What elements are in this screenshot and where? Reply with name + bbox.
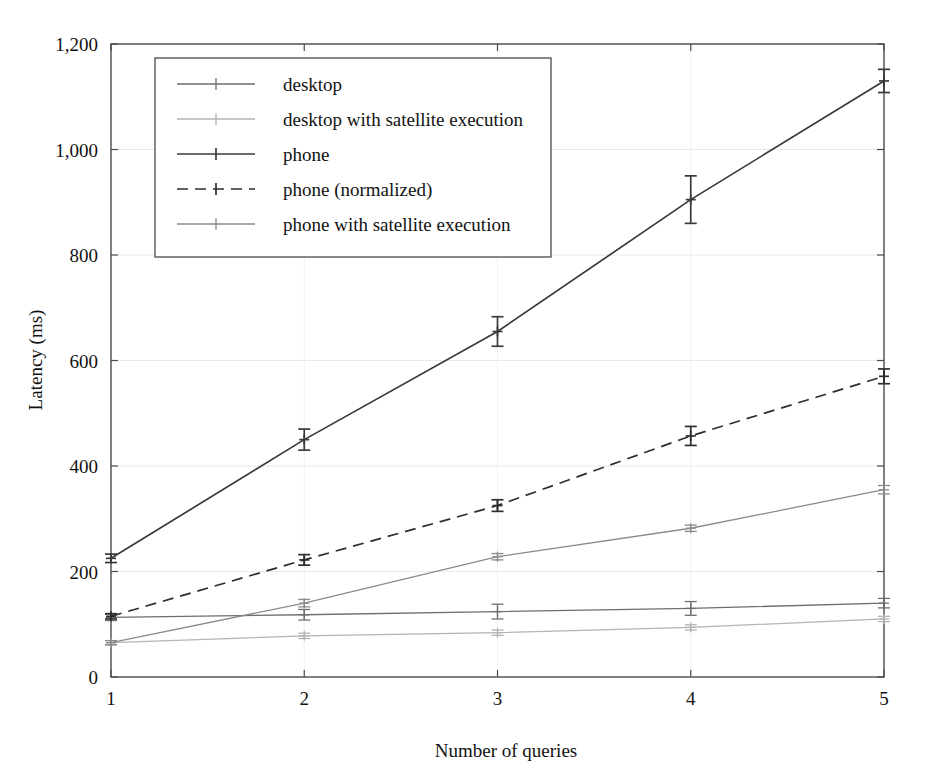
x-tick-label: 2: [300, 688, 310, 709]
y-tick-label: 200: [70, 562, 99, 583]
x-tick-label: 4: [686, 688, 696, 709]
legend-label: desktop: [283, 74, 342, 95]
legend-label: phone: [283, 144, 329, 165]
y-tick-label: 1,000: [55, 140, 98, 161]
legend-label: phone (normalized): [283, 179, 432, 201]
x-tick-label: 3: [493, 688, 503, 709]
chart-legend: desktopdesktop with satellite executionp…: [155, 58, 551, 257]
x-tick-label: 1: [106, 688, 116, 709]
chart-figure: 12345 02004006008001,0001,200 desktopdes…: [0, 0, 934, 784]
y-tick-label: 1,200: [55, 34, 98, 55]
y-tick-label: 600: [70, 351, 99, 372]
legend-label: desktop with satellite execution: [283, 109, 524, 130]
y-tick-label: 400: [70, 456, 99, 477]
y-tick-label: 0: [89, 667, 99, 688]
y-axis-title: Latency (ms): [25, 310, 47, 411]
x-axis-title: Number of queries: [435, 740, 577, 761]
x-tick-label: 5: [879, 688, 889, 709]
y-tick-label: 800: [70, 245, 99, 266]
latency-line-chart: 12345 02004006008001,0001,200 desktopdes…: [0, 0, 934, 784]
legend-label: phone with satellite execution: [283, 214, 511, 235]
